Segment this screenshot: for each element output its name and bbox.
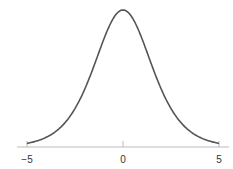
density-chart: −505 — [0, 0, 233, 169]
x-tick-label: 5 — [216, 154, 222, 165]
x-tick-label: 0 — [120, 154, 126, 165]
x-axis-ticks: −505 — [21, 141, 222, 165]
x-tick-label: −5 — [21, 154, 33, 165]
density-curve — [27, 10, 219, 143]
